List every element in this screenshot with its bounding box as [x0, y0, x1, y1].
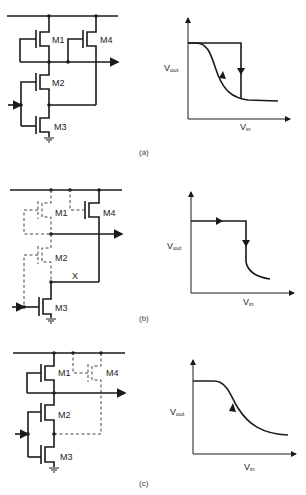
graph-a-x-label: Vin — [240, 122, 251, 132]
circuit-b: X M1 M4 M2 M3 — [10, 188, 122, 323]
transistor-m3 — [28, 434, 54, 467]
label-m2: M2 — [58, 410, 71, 420]
label-m3: M3 — [60, 452, 73, 462]
transistor-m2-dashed — [24, 234, 51, 307]
label-m4: M4 — [103, 208, 116, 218]
circuit-c: M1 M4 M2 M3 — [13, 351, 125, 472]
graph-c-y-label: Vout — [170, 407, 184, 417]
graph-c-x-label: Vin — [244, 462, 255, 472]
transistor-m1-dashed — [24, 190, 51, 234]
graph-a — [188, 18, 290, 119]
transistor-m4 — [70, 190, 99, 282]
caption-c: (c) — [139, 479, 148, 488]
label-m3: M3 — [55, 303, 68, 313]
label-m1: M1 — [58, 368, 71, 378]
label-m1: M1 — [55, 208, 68, 218]
transistor-m2 — [21, 62, 49, 126]
graph-b — [191, 192, 294, 293]
label-m3: M3 — [54, 122, 67, 132]
ground-icon — [44, 138, 54, 142]
label-m1: M1 — [52, 35, 65, 45]
label-m2: M2 — [52, 78, 65, 88]
transistor-m3 — [24, 282, 51, 318]
transistor-m1 — [20, 16, 49, 62]
transistor-m1 — [27, 353, 54, 393]
caption-a: (a) — [139, 148, 149, 157]
graph-b-x-label: Vin — [243, 297, 254, 307]
label-m4: M4 — [106, 368, 119, 378]
label-node-x: X — [72, 271, 78, 281]
graph-b-y-label: Vout — [167, 241, 181, 251]
graph-c — [193, 360, 296, 454]
ground-icon — [49, 468, 59, 472]
circuit-a: M1 M4 M2 M3 — [7, 14, 118, 142]
label-m4: M4 — [100, 35, 113, 45]
ground-icon — [46, 319, 56, 323]
graph-a-y-label: Vout — [164, 63, 178, 73]
schmitt-trigger-figure: M1 M4 M2 M3 — [0, 0, 306, 495]
label-m2: M2 — [55, 253, 68, 263]
transistor-m3 — [21, 105, 49, 137]
transistor-m4 — [68, 16, 96, 105]
caption-b: (b) — [139, 314, 149, 323]
